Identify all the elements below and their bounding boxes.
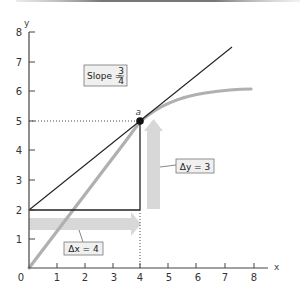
tangent-line: [29, 47, 232, 210]
svg-text:4: 4: [118, 76, 124, 86]
svg-text:1: 1: [16, 234, 22, 245]
svg-text:2: 2: [16, 205, 22, 216]
svg-text:8: 8: [16, 27, 22, 38]
point-a-label: a: [136, 107, 142, 117]
delta-y-connector: [160, 165, 176, 167]
y-axis-title: y: [24, 18, 30, 28]
delta-y-arrow: [144, 119, 163, 209]
svg-text:7: 7: [222, 272, 228, 283]
svg-text:3: 3: [118, 66, 124, 76]
svg-text:4: 4: [137, 272, 143, 283]
slope-label-box: Slope = 3 4: [84, 65, 127, 86]
x-axis-title: x: [274, 262, 280, 272]
point-a: [136, 117, 144, 125]
svg-text:8: 8: [251, 272, 257, 283]
x-ticks: [57, 263, 254, 268]
svg-text:4: 4: [16, 145, 22, 156]
delta-x-connector: [79, 230, 83, 242]
svg-text:3: 3: [111, 272, 117, 283]
svg-text:7: 7: [16, 57, 22, 68]
delta-x-arrow: [29, 212, 141, 236]
svg-text:2: 2: [82, 272, 88, 283]
svg-text:0: 0: [18, 272, 24, 283]
delta-x-label-box: Δx = 4: [64, 242, 103, 255]
svg-text:6: 6: [16, 86, 22, 97]
x-tick-labels: 0 1 2 3 4 5 6 7 8: [18, 272, 257, 283]
svg-text:5: 5: [166, 272, 172, 283]
svg-text:1: 1: [54, 272, 60, 283]
svg-text:Slope =: Slope =: [87, 71, 122, 81]
svg-text:5: 5: [16, 116, 22, 127]
top-rule: [16, 0, 300, 2]
y-tick-labels: 1 2 3 4 5 6 7 8: [16, 27, 22, 245]
svg-text:Δy = 3: Δy = 3: [180, 162, 210, 172]
svg-text:Δx = 4: Δx = 4: [68, 244, 99, 254]
chart: 1 2 3 4 5 6 7 8 0 1 2 3 4 5 6 7 8 y x a …: [0, 0, 303, 291]
delta-y-label-box: Δy = 3: [176, 159, 214, 173]
svg-text:3: 3: [16, 175, 22, 186]
svg-text:6: 6: [195, 272, 201, 283]
